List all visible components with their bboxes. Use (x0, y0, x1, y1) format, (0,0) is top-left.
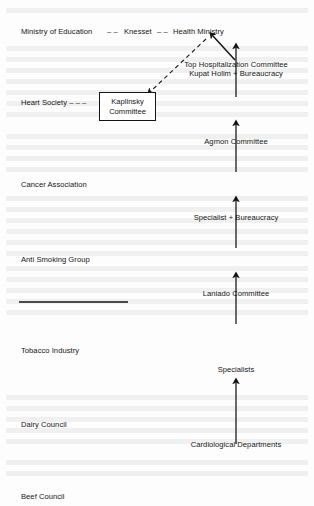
kaplinsky-line1: Kaplinsky (111, 97, 144, 107)
arrow-top-hospitalization-to-health-ministry (213, 36, 235, 60)
left-item-heart-society: Heart Society – – – (21, 98, 86, 107)
node-specialists: Specialists (218, 365, 255, 374)
node-specialist-bureaucracy: Specialist + Bureaucracy (194, 213, 279, 222)
node-top-hospitalization-line1: Top Hospitalization Committee (184, 60, 288, 69)
left-item-dairy-council: Dairy Council (21, 420, 67, 429)
node-agmon-committee: Agmon Committee (204, 137, 267, 146)
top-row-knesset: Knesset (124, 27, 152, 36)
node-cardiological-departments: Cardiological Departments (191, 440, 281, 449)
top-row-separator-2: – – (157, 27, 168, 36)
left-item-heart-society-label: Heart Society (21, 98, 67, 107)
left-item-anti-smoking-group: Anti Smoking Group (21, 255, 90, 264)
top-row-health-ministry: Health Ministry (173, 27, 224, 36)
top-row-ministry-of-education: Ministry of Education (21, 27, 92, 36)
heart-society-dash-connector: – – – (69, 98, 86, 107)
node-top-hospitalization-line2: Kupat Holim + Bureaucracy (189, 69, 283, 78)
left-item-tobacco-industry: Tobacco Industry (21, 346, 79, 355)
left-item-beef-council: Beef Council (21, 492, 65, 501)
boxed-node-kaplinsky-committee: Kaplinsky Committee (99, 92, 156, 121)
top-row-separator-1: – – (107, 27, 118, 36)
kaplinsky-line2: Committee (109, 107, 146, 117)
node-top-hospitalization-committee: Top Hospitalization Committee Kupat Holi… (161, 60, 311, 79)
left-item-cancer-association: Cancer Association (21, 180, 87, 189)
node-laniado-committee: Laniado Committee (203, 289, 270, 298)
